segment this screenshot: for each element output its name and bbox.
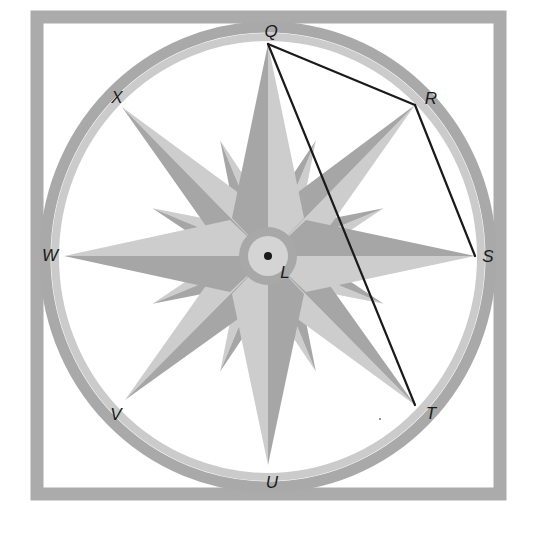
label-S: S: [482, 247, 494, 266]
label-W: W: [42, 246, 60, 265]
compass-rose-diagram: Q R S T U V W X L: [0, 0, 537, 534]
label-Q: Q: [264, 22, 277, 41]
label-R: R: [425, 89, 437, 108]
scan-speck: [379, 418, 381, 420]
label-V: V: [110, 405, 123, 424]
label-X: X: [110, 88, 123, 107]
label-L: L: [280, 263, 289, 282]
center-point-L: [264, 252, 272, 260]
label-U: U: [266, 473, 279, 492]
label-T: T: [426, 404, 438, 423]
diagram-canvas: Q R S T U V W X L: [0, 0, 537, 534]
